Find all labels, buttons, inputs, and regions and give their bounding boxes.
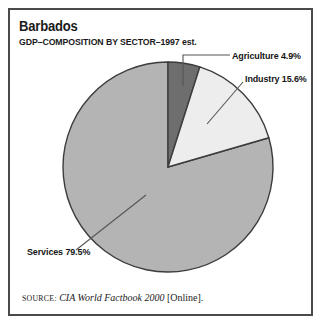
source-publication: CIA World Factbook 2000 [59, 292, 164, 303]
pie-label-industry: Industry 15.6% [245, 73, 307, 84]
source-suffix: [Online]. [167, 292, 203, 303]
chart-figure: Barbados GDP–COMPOSITION BY SECTOR–1997 … [0, 0, 325, 327]
source-note: SOURCE: CIA World Factbook 2000 [Online]… [22, 292, 203, 303]
pie-label-agriculture: Agriculture 4.9% [232, 50, 301, 61]
source-label: SOURCE: [22, 294, 57, 303]
pie-label-services: Services 79.5% [27, 246, 90, 257]
